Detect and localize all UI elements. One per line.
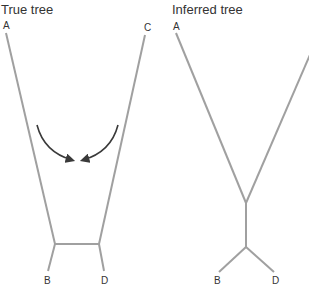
true-tree-branches (6, 33, 145, 271)
convergence-arrows (37, 125, 118, 160)
tree-diagram (0, 0, 309, 288)
inferred-tree-branches (176, 33, 309, 272)
